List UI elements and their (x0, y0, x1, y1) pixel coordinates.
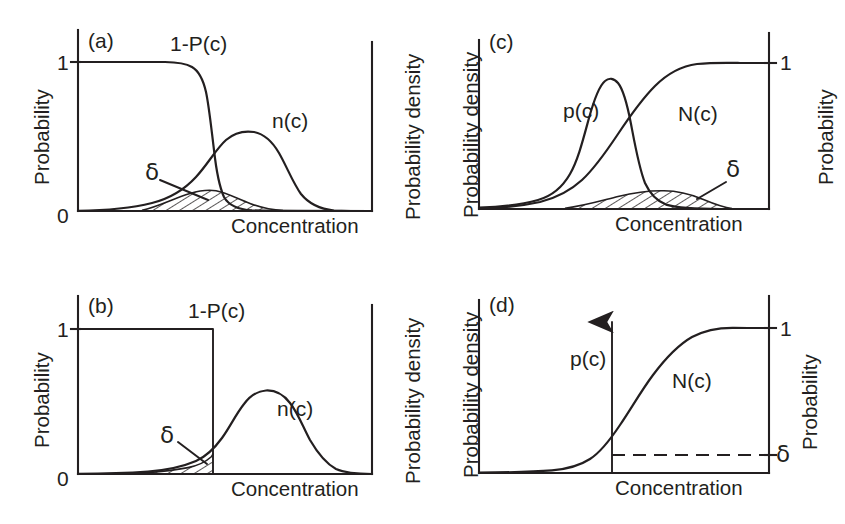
panel-b-delta-annotation: δ (160, 424, 174, 447)
panel-a-xaxis-title: Concentration (231, 216, 359, 237)
panel-d-y2tick-delta: δ (776, 443, 790, 466)
panel-d-label-N: N(c) (672, 370, 712, 391)
panel-c-curve-N (479, 63, 769, 209)
panel-b-delta-leader (178, 442, 207, 464)
panel-d-xaxis-title: Concentration (615, 478, 743, 499)
panel-c-label-N: N(c) (678, 103, 718, 124)
panel-c-curve-p (479, 79, 769, 209)
panel-a-geometry (71, 30, 372, 211)
panel-a-label-n: n(c) (272, 110, 308, 131)
panel-d-tag: (d) (489, 294, 515, 315)
panel-a-curve-1-minus-p (78, 62, 372, 211)
panel-c-tag: (c) (489, 31, 514, 52)
panel-d-y2tick-one: 1 (780, 318, 792, 339)
panel-b-tag: (b) (88, 295, 114, 316)
panel-b-label-n: n(c) (277, 398, 313, 419)
panel-b-label-1-minus-p: 1-P(c) (188, 300, 245, 321)
panel-c-yaxis-title: Probability density (461, 52, 482, 218)
panel-b-curve-n (78, 390, 372, 474)
panel-b-y2axis-title: Probability density (403, 318, 424, 484)
panel-a-ytick-zero: 0 (57, 205, 69, 226)
panel-c-delta-annotation: δ (726, 158, 740, 181)
panel-a-ytick-one: 1 (57, 52, 69, 73)
panel-c-label-p: p(c) (563, 100, 599, 121)
panel-d-curve-N (479, 328, 769, 473)
panel-a-tag: (a) (88, 30, 114, 51)
panel-d-label-p: p(c) (570, 348, 606, 369)
panel-c-xaxis-title: Concentration (615, 214, 743, 235)
panel-a-y2axis-title: Probability density (403, 54, 424, 220)
panel-c-y2tick-one: 1 (780, 52, 792, 73)
panel-d-y2axis-title: Probability (800, 354, 821, 450)
panel-b-geometry (71, 296, 372, 474)
panel-c-geometry (479, 33, 776, 209)
panel-b-ytick-zero: 0 (57, 468, 69, 489)
panel-b-ytick-one: 1 (57, 319, 69, 340)
panel-c-delta-leader (697, 182, 726, 199)
panel-b-yaxis-title: Probability (32, 352, 53, 448)
figure-canvas: (a) 1 0 1-P(c) n(c) δ Concentration Prob… (0, 0, 845, 524)
panel-a-delta-annotation: δ (145, 161, 159, 184)
panel-d-yaxis-title: Probability density (461, 312, 482, 478)
panel-c-y2axis-title: Probability (816, 89, 837, 185)
panel-a-label-1-minus-p: 1-P(c) (170, 33, 227, 54)
panel-a-yaxis-title: Probability (32, 89, 53, 185)
panel-b-xaxis-title: Concentration (231, 479, 359, 500)
panel-d-geometry (479, 296, 776, 473)
